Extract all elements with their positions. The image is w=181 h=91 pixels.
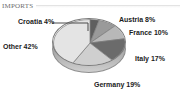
header-divider: [36, 4, 180, 8]
slice-label-croatia: Croatia 4%: [18, 18, 54, 26]
slice-label-austria: Austria 8%: [119, 16, 155, 24]
pie-chart: Croatia 4% Austria 8% France 10% Italy 1…: [0, 10, 181, 91]
slice-label-other: Other 42%: [3, 43, 38, 51]
slice-label-italy: Italy 17%: [135, 55, 165, 63]
slice-label-france: France 10%: [129, 29, 168, 37]
slice-label-germany: Germany 19%: [94, 81, 140, 89]
page-title: IMPORTS: [0, 2, 33, 10]
croatia-leader-line: [52, 22, 92, 32]
